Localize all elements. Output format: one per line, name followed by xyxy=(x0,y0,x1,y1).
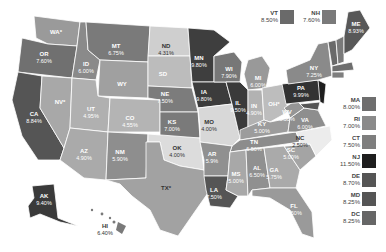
label-MI: MI6.00% xyxy=(250,75,266,89)
value: 9.50% xyxy=(230,107,246,114)
abbr: RI xyxy=(330,116,360,123)
abbr: SD xyxy=(159,71,167,78)
value: 7.90% xyxy=(221,73,237,80)
value: 4.90% xyxy=(246,110,262,117)
value: 7.50% xyxy=(343,142,360,148)
value: 9.80% xyxy=(196,96,212,103)
abbr: TX* xyxy=(161,185,171,192)
value: 7.60% xyxy=(36,58,52,65)
value: 6.50% xyxy=(246,146,262,153)
abbr: NC xyxy=(292,135,308,142)
label-UT: UT4.95% xyxy=(83,106,99,120)
value: 6.40% xyxy=(97,230,113,237)
abbr: WV xyxy=(279,109,295,116)
label-ND: ND4.31% xyxy=(158,43,174,57)
label-ME: ME8.93% xyxy=(348,21,364,35)
label-LA: LA7.50% xyxy=(206,187,222,201)
value: 9.40% xyxy=(36,200,52,207)
abbr: OK xyxy=(169,145,185,152)
label-HI: HI6.40% xyxy=(97,223,113,237)
swatch-DC xyxy=(362,211,376,225)
value: 8.50% xyxy=(261,17,278,23)
abbr: VA xyxy=(297,117,313,124)
abbr: HI xyxy=(97,223,113,230)
value: 4.00% xyxy=(169,152,185,159)
callout-MA: MA8.00% xyxy=(330,97,360,111)
abbr: MT xyxy=(108,43,124,50)
value: 5.75% xyxy=(266,174,282,181)
value: 7.00% xyxy=(343,123,360,129)
label-KS: KS7.00% xyxy=(164,119,180,133)
swatch-MD xyxy=(362,192,376,206)
abbr: AZ xyxy=(76,148,92,155)
value: 5.90% xyxy=(112,156,128,163)
abbr: MI xyxy=(250,75,266,82)
label-WA: WA* xyxy=(50,29,62,36)
value: 5.00% xyxy=(228,178,244,185)
label-IA: IA9.80% xyxy=(196,89,212,103)
label-ID: ID6.00% xyxy=(78,61,94,75)
abbr: OH* xyxy=(268,101,279,108)
label-NC: NC2.50% xyxy=(292,135,308,149)
state-CT xyxy=(332,72,344,78)
label-SD: SD xyxy=(159,71,167,78)
label-MT: MT6.75% xyxy=(108,43,124,57)
label-NE: NE7.50% xyxy=(157,91,173,105)
value: 5.9% xyxy=(206,158,219,165)
abbr: NV* xyxy=(55,99,66,106)
callout-DE: DE8.70% xyxy=(330,173,360,187)
callout-VT: VT8.50% xyxy=(256,10,278,24)
abbr: NY xyxy=(306,65,322,72)
label-TN: TN6.50% xyxy=(246,139,262,153)
abbr: DC xyxy=(330,211,360,218)
abbr: IN xyxy=(246,103,262,110)
swatch-RI xyxy=(362,116,376,130)
abbr: DE xyxy=(330,173,360,180)
abbr: MO xyxy=(201,119,217,126)
abbr: MN xyxy=(191,55,207,62)
label-KY: KY5.00% xyxy=(254,121,270,135)
label-WV: WV6.50% xyxy=(279,109,295,123)
label-AL: AL6.50% xyxy=(249,165,265,179)
label-MN: MN9.80% xyxy=(191,55,207,69)
swatch-VT xyxy=(280,10,294,24)
swatch-MA xyxy=(362,97,376,111)
abbr: UT xyxy=(83,106,99,113)
value: 9.80% xyxy=(191,62,207,69)
value: 5.00% xyxy=(254,128,270,135)
us-tax-map: WA* OR7.60% CA8.84% NV* ID6.00% MT6.75% … xyxy=(0,0,386,252)
label-OR: OR7.60% xyxy=(36,51,52,65)
abbr: MD xyxy=(330,192,360,199)
map-shapes xyxy=(0,0,386,252)
label-NY: NY7.25% xyxy=(306,65,322,79)
value: 11.50% xyxy=(340,161,360,167)
label-CA: CA8.84% xyxy=(26,111,42,125)
callout-NH: NH7.60% xyxy=(298,10,320,24)
value: 7.25% xyxy=(306,72,322,79)
value: 6.50% xyxy=(279,116,295,123)
swatch-DE xyxy=(362,173,376,187)
abbr: FL xyxy=(286,203,302,210)
label-MO: MO4.00% xyxy=(201,119,217,133)
label-SC: SC5.00% xyxy=(283,147,299,161)
value: 4.31% xyxy=(158,50,174,57)
label-FL: FL5.50% xyxy=(286,203,302,217)
abbr: IL xyxy=(230,100,246,107)
label-CO: CO4.55% xyxy=(122,115,138,129)
abbr: MA xyxy=(330,97,360,104)
abbr: CT xyxy=(330,135,360,142)
callout-CT: CT7.50% xyxy=(330,135,360,149)
label-IN: IN4.90% xyxy=(246,103,262,117)
abbr: WY xyxy=(117,81,127,88)
abbr: WI xyxy=(221,66,237,73)
value: 4.90% xyxy=(76,155,92,162)
label-AR: AR5.9% xyxy=(206,151,219,165)
abbr: CA xyxy=(26,111,42,118)
value: 4.00% xyxy=(201,126,217,133)
abbr: NJ xyxy=(330,154,360,161)
label-MS: MS5.00% xyxy=(228,171,244,185)
abbr: AR xyxy=(206,151,219,158)
value: 9.99% xyxy=(293,92,309,99)
label-GA: GA5.75% xyxy=(266,167,282,181)
value: 4.55% xyxy=(122,122,138,129)
